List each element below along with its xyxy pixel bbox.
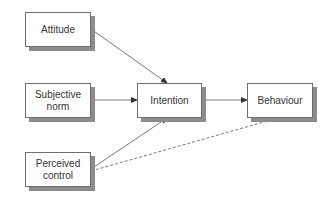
node-perceived-label-2: control	[43, 170, 73, 182]
edge-attitude-intention	[91, 29, 167, 83]
node-perceived-control: Perceived control	[25, 152, 91, 187]
edge-perceived-intention	[91, 118, 167, 169]
node-attitude-label: Attitude	[41, 24, 75, 36]
node-subjective-label-1: Subjective	[35, 89, 81, 101]
node-attitude: Attitude	[25, 12, 91, 47]
node-subjective-norm: Subjective norm	[25, 83, 91, 118]
node-intention: Intention	[137, 83, 202, 118]
node-behaviour: Behaviour	[247, 83, 313, 118]
node-behaviour-label: Behaviour	[257, 95, 302, 107]
node-perceived-label-1: Perceived	[36, 158, 80, 170]
edge-perceived-behaviour-dashed	[91, 118, 278, 171]
node-subjective-label-2: norm	[47, 101, 70, 113]
node-intention-label: Intention	[150, 95, 188, 107]
